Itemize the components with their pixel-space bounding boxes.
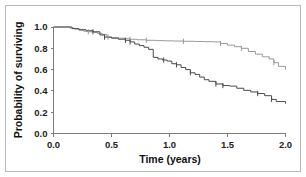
x-axis-title: Time (years): [139, 153, 201, 165]
y-tick-label: 0.4: [34, 85, 48, 96]
x-tick-label: 0.0: [47, 139, 60, 150]
x-tick-label: 1.5: [221, 139, 235, 150]
y-tick-label: 1.0: [34, 21, 47, 32]
axes: [54, 27, 287, 134]
y-tick-label: 0.2: [34, 107, 47, 118]
x-tick-label: 2.0: [279, 139, 292, 150]
x-tick-label: 1.0: [163, 139, 176, 150]
x-axis-tick-labels: 0.00.51.01.52.0: [47, 139, 292, 150]
y-tick-label: 0.0: [34, 128, 47, 139]
survival-plot: 0.00.20.40.60.81.0 0.00.51.01.52.0 Time …: [0, 0, 306, 177]
survival-curves: [54, 27, 286, 104]
figure-container: 0.00.20.40.60.81.0 0.00.51.01.52.0 Time …: [0, 0, 306, 177]
y-axis-title: Probability of surviving: [12, 22, 24, 139]
y-axis-tick-labels: 0.00.20.40.60.81.0: [34, 21, 48, 138]
y-tick-label: 0.6: [34, 64, 47, 75]
y-tick-label: 0.8: [34, 43, 47, 54]
x-tick-label: 0.5: [105, 139, 119, 150]
curve-lower-curve: [54, 27, 286, 104]
